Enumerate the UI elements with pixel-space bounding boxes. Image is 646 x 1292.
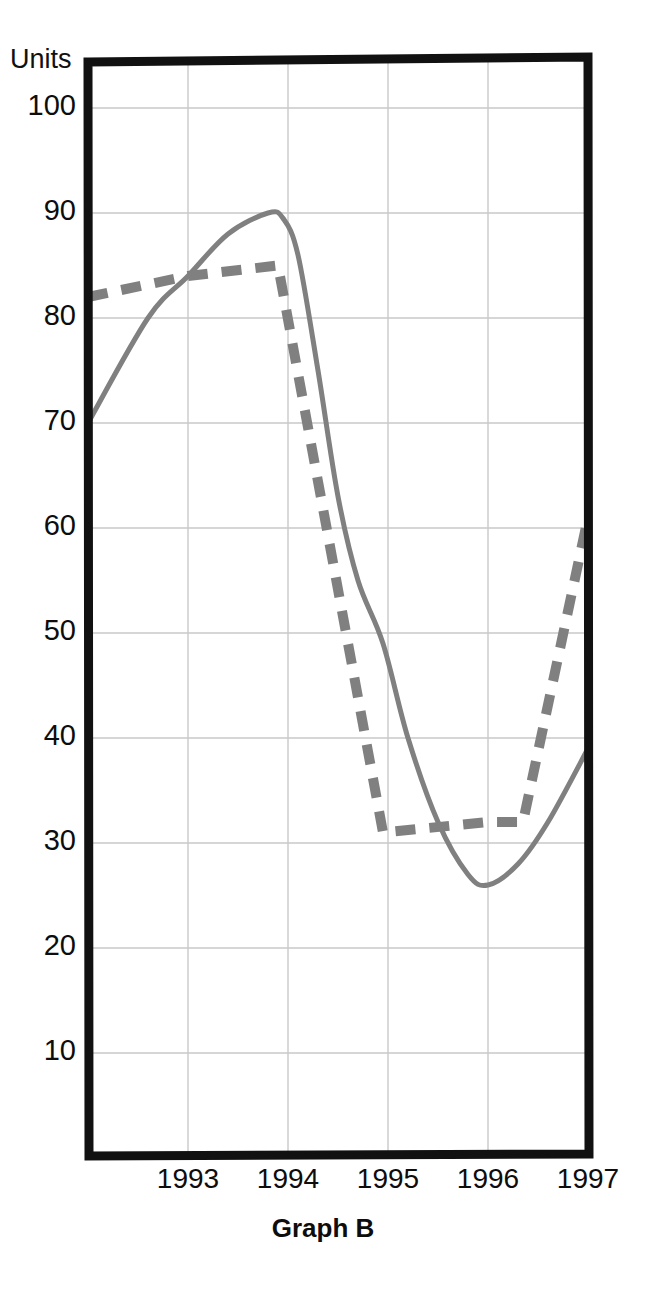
plot-frame <box>88 57 589 1156</box>
plot-area <box>0 0 646 1292</box>
vertical-gridlines <box>188 58 488 1156</box>
data-series-group <box>88 212 588 886</box>
series-solid-line <box>88 212 588 886</box>
figure-caption: Graph B <box>0 1213 646 1244</box>
graph-b-figure: Units 100908070605040302010 199319941995… <box>0 0 646 1292</box>
series-dashed-line <box>88 266 588 833</box>
